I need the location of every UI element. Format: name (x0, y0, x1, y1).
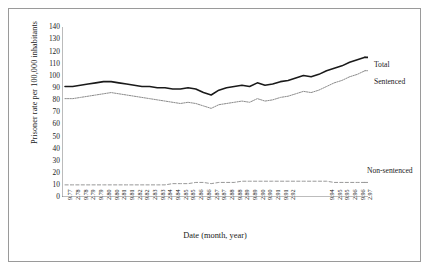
line-chart-svg (62, 27, 368, 197)
series-line-sentenced (65, 71, 365, 109)
figure: Prisoner rate per 100,000 inhabitants Da… (0, 0, 429, 270)
x-tick-label: 2.97 (367, 190, 373, 200)
series-label-sentenced: Sentenced (374, 77, 405, 86)
series-label-non-sentenced: Non-sentenced (367, 166, 413, 175)
plot-area (62, 27, 368, 197)
series-label-total: Total (374, 60, 390, 69)
series-line-non-sentenced (65, 181, 365, 185)
